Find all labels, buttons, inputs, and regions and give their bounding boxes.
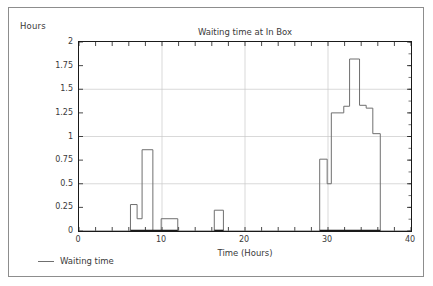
chart-legend: Waiting time bbox=[38, 256, 114, 266]
plot-area bbox=[78, 41, 412, 232]
legend-line-swatch-icon bbox=[38, 261, 54, 262]
gridlines bbox=[79, 42, 411, 231]
legend-label: Waiting time bbox=[60, 256, 114, 266]
chart-title: Waiting time at In Box bbox=[78, 27, 412, 37]
chart-window: Hours Waiting time at In Box 00.250.50.7… bbox=[0, 0, 433, 286]
chart-plot-svg bbox=[79, 42, 411, 231]
x-axis-caption: Time (Hours) bbox=[78, 248, 412, 258]
y-axis-caption: Hours bbox=[20, 21, 46, 31]
